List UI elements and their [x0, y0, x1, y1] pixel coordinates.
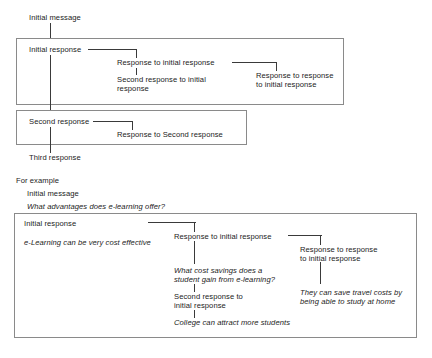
- connector-second-to-third-response: [50, 127, 51, 153]
- connector-example-initial-response-down: [194, 222, 195, 232]
- label-example-initial-response: Initial response: [24, 219, 76, 228]
- connector-second-response-to-initial: [136, 68, 137, 75]
- label-example-initial-message: Initial message: [27, 189, 79, 198]
- diagram-canvas: Initial message Initial response Respons…: [0, 0, 432, 358]
- connector-example-initial-response-horizontal: [148, 222, 196, 223]
- label-second-response-to-initial-line2: response: [117, 84, 149, 93]
- label-second-response-to-initial-line1: Second response to initial: [117, 75, 206, 84]
- label-example-initial-response-text: e-Learning can be very cost effective: [24, 238, 151, 247]
- connector-initial-response-horizontal: [88, 49, 137, 50]
- connector-initial-response-down: [136, 49, 137, 58]
- label-example-initial-message-text: What advantages does e-learning offer?: [27, 202, 165, 211]
- label-second-response: Second response: [29, 117, 89, 126]
- label-response-to-response-line1: Response to response: [256, 71, 334, 80]
- connector-response-to-response-down: [276, 62, 277, 71]
- connector-second-response-horizontal: [93, 121, 133, 122]
- label-example-second-response-text: College can attract more students: [174, 318, 290, 327]
- label-example-second-response-line2: initial response: [174, 301, 226, 310]
- connector-second-response-down: [132, 121, 133, 130]
- connector-example-down-to-second-response: [194, 284, 195, 292]
- label-example-response-to-initial-response: Response to initial response: [174, 232, 272, 241]
- label-example-response-to-response-line1: Response to response: [300, 245, 378, 254]
- label-example-response-to-response-text-line2: being able to study at home: [300, 297, 395, 306]
- connector-response-to-response-horizontal: [232, 62, 277, 63]
- label-initial-response: Initial response: [29, 45, 81, 54]
- label-third-response: Third response: [29, 153, 81, 162]
- connector-example-down-to-college-text: [194, 310, 195, 318]
- label-initial-message: Initial message: [29, 13, 81, 22]
- label-response-to-response-line2: to initial response: [256, 80, 317, 89]
- connector-example-response-to-response-horizontal: [288, 235, 322, 236]
- label-example-second-response-line1: Second response to: [174, 292, 243, 301]
- label-example-response-to-initial-text-line2: student gain from e-learning?: [174, 275, 275, 284]
- connector-initial-response-to-second-response: [50, 55, 51, 110]
- label-for-example: For example: [16, 176, 59, 185]
- connector-example-response-to-response-down: [320, 235, 321, 245]
- connector-initial-message-to-initial-response: [50, 23, 51, 38]
- label-example-response-to-initial-text-line1: What cost savings does a: [174, 266, 262, 275]
- label-response-to-initial-response: Response to initial response: [117, 58, 215, 67]
- label-example-response-to-response-line2: to initial response: [300, 254, 361, 263]
- label-example-response-to-response-text-line1: They can save travel costs by: [300, 288, 402, 297]
- connector-example-response-down-to-question: [194, 241, 195, 264]
- label-response-to-second-response: Response to Second response: [117, 130, 223, 139]
- connector-example-response-to-response-down-to-text: [320, 262, 321, 284]
